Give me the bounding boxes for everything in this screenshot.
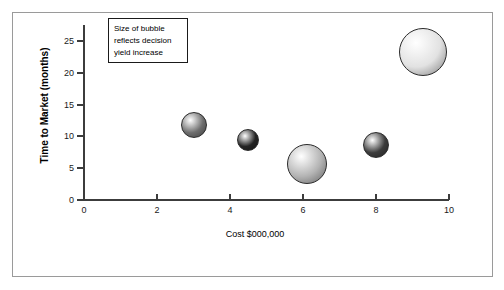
bubble-point <box>399 28 447 76</box>
x-axis-tick-label: 6 <box>293 205 313 215</box>
y-axis-tick <box>77 167 83 169</box>
x-axis-tick <box>448 194 450 200</box>
y-axis-tick <box>77 40 83 42</box>
x-axis-tick-label: 2 <box>147 205 167 215</box>
x-axis-tick <box>83 194 85 200</box>
x-axis-tick-label: 0 <box>74 205 94 215</box>
y-axis-tick-label: 25 <box>54 36 74 46</box>
y-axis-tick-label: 0 <box>54 195 74 205</box>
legend-line-1: Size of bubble <box>114 23 182 35</box>
y-axis-title: Time to Market (months) <box>39 26 50 186</box>
legend-box: Size of bubble reflects decision yield i… <box>108 18 188 63</box>
y-axis-tick <box>77 72 83 74</box>
y-axis-tick <box>77 135 83 137</box>
bubble-point <box>181 112 207 138</box>
x-axis-tick <box>229 194 231 200</box>
x-axis-title: Cost $000,000 <box>175 229 335 239</box>
y-axis-tick-label: 10 <box>54 131 74 141</box>
x-axis-tick <box>375 194 377 200</box>
bubble-point <box>363 132 389 158</box>
x-axis-tick-label: 4 <box>220 205 240 215</box>
legend-line-3: yield increase <box>114 47 182 59</box>
bubble-chart-figure: 0510152025 0246810 Time to Market (month… <box>0 0 504 290</box>
y-axis-tick-label: 5 <box>54 163 74 173</box>
bubble-point <box>237 129 259 151</box>
y-axis-line <box>83 25 85 201</box>
x-axis-tick-label: 10 <box>439 205 459 215</box>
x-axis-line <box>83 199 449 201</box>
x-axis-tick <box>156 194 158 200</box>
x-axis-tick-label: 8 <box>366 205 386 215</box>
y-axis-tick <box>77 104 83 106</box>
x-axis-tick <box>302 194 304 200</box>
plot-area: 0510152025 0246810 Time to Market (month… <box>0 0 504 290</box>
y-axis-tick-label: 20 <box>54 68 74 78</box>
y-axis-tick-label: 15 <box>54 100 74 110</box>
legend-line-2: reflects decision <box>114 35 182 47</box>
bubble-point <box>287 144 327 184</box>
